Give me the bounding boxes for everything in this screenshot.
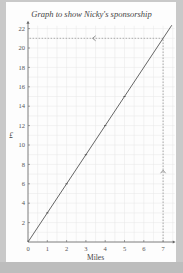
y-tick-label: 12	[19, 122, 26, 129]
y-axis-arrow-icon	[26, 21, 29, 24]
y-tick-label: 20	[19, 44, 26, 51]
bottom-band	[0, 262, 183, 273]
x-tick-label: 4	[104, 245, 108, 252]
y-tick-label: 10	[19, 141, 26, 148]
line-chart: 01234567246810121416182022Miles£	[0, 0, 183, 273]
y-tick-label: 6	[22, 180, 26, 187]
x-tick-label: 7	[161, 245, 165, 252]
x-tick-label: 6	[142, 245, 146, 252]
x-tick-label: 5	[123, 245, 126, 252]
x-tick-label: 3	[84, 245, 87, 252]
x-tick-label: 1	[46, 245, 49, 252]
x-tick-label: 2	[65, 245, 68, 252]
y-tick-label: 18	[19, 64, 26, 71]
x-axis-arrow-icon	[173, 240, 176, 243]
y-tick-label: 8	[22, 161, 25, 168]
y-tick-label: 2	[22, 219, 25, 226]
y-axis-label: £	[9, 131, 13, 140]
y-tick-label: 16	[19, 83, 26, 90]
y-tick-label: 22	[19, 25, 26, 32]
y-tick-label: 14	[19, 102, 26, 109]
y-tick-label: 4	[22, 199, 26, 206]
x-tick-label: 0	[26, 245, 29, 252]
x-axis-label: Miles	[87, 253, 104, 262]
